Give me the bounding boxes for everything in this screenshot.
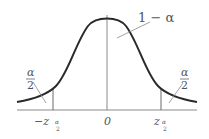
center-label: 0 [104, 115, 111, 128]
left-critical-sub-num: α [55, 118, 59, 125]
left-tail-numerator: α [27, 66, 35, 79]
right-critical-sub-num: α [162, 118, 166, 125]
left-tail-leader [33, 82, 46, 103]
left-tail-denominator: 2 [27, 79, 34, 92]
left-critical-label: −z [34, 115, 49, 128]
normal-distribution-diagram: 1 − α α 2 α 2 −z α 2 0 z α 2 [0, 0, 209, 139]
middle-area-label: 1 − α [138, 10, 174, 25]
right-critical-sub-den: 2 [163, 125, 167, 132]
right-tail-denominator: 2 [181, 79, 188, 92]
right-critical-label: z [153, 115, 160, 128]
left-critical-sub-den: 2 [56, 125, 60, 132]
right-tail-numerator: α [181, 66, 189, 79]
